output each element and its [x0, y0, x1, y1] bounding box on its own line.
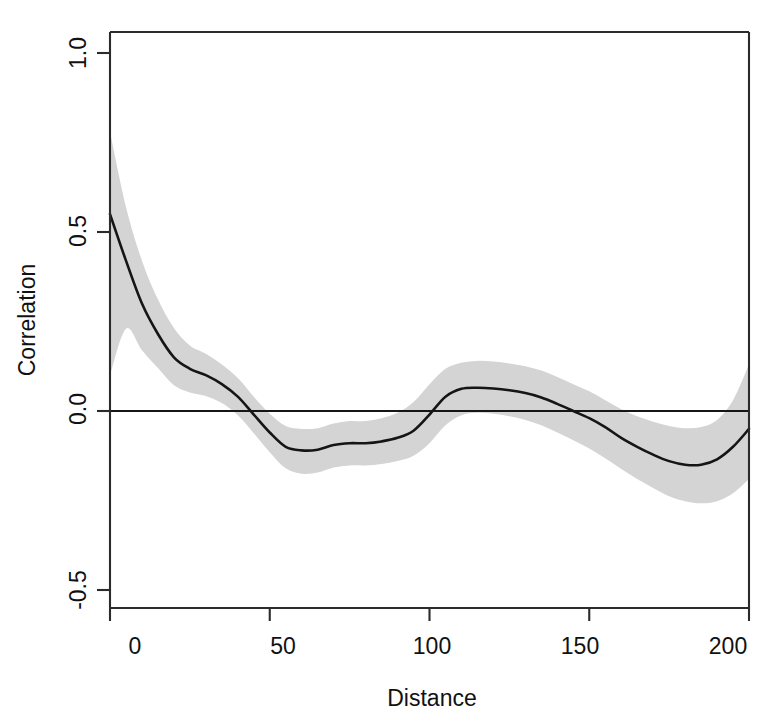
y-tick-label-2: 0.5 — [65, 215, 91, 247]
correlogram-figure: 1.0 0.5 0.0 -0.5 0 50 100 150 200 Correl… — [0, 0, 772, 719]
x-axis-ticks — [110, 608, 749, 621]
chart-canvas: 1.0 0.5 0.0 -0.5 0 50 100 150 200 Correl… — [0, 0, 772, 719]
y-tick-label-1: 1.0 — [65, 37, 91, 69]
y-tick-label-4: -0.5 — [65, 570, 91, 610]
x-tick-label-4: 150 — [561, 633, 599, 659]
y-axis-title: Correlation — [14, 264, 40, 377]
plot-frame — [110, 32, 749, 608]
x-axis-tick-labels: 0 50 100 150 200 — [129, 633, 748, 659]
y-axis-tick-labels: 1.0 0.5 0.0 -0.5 — [65, 37, 91, 610]
x-tick-label-2: 50 — [270, 633, 296, 659]
y-tick-label-3: 0.0 — [65, 393, 91, 425]
x-axis-title: Distance — [387, 685, 476, 711]
y-axis-ticks — [97, 53, 110, 590]
confidence-band — [110, 132, 749, 504]
x-tick-label-1: 0 — [129, 633, 142, 659]
x-tick-label-5: 200 — [709, 633, 747, 659]
x-tick-label-3: 100 — [413, 633, 451, 659]
